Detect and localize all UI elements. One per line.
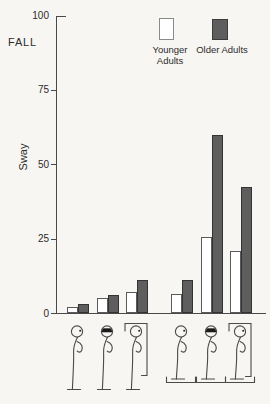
bar-older-condition-5: [212, 135, 223, 314]
y-tick-label-75: 75: [19, 84, 49, 95]
y-tick-label-25: 25: [19, 233, 49, 244]
bar-younger-condition-5: [201, 237, 212, 313]
fall-annotation: FALL: [8, 36, 37, 48]
y-tick-label-50: 50: [19, 159, 49, 170]
y-tick-25: [51, 239, 57, 240]
legend-older-swatch: [212, 19, 228, 40]
bar-younger-condition-3: [126, 292, 137, 313]
bar-younger-condition-4: [171, 294, 182, 313]
legend-younger-label: Younger Adults: [144, 44, 196, 66]
bar-younger-condition-2: [97, 298, 108, 313]
y-tick-label-0: 0: [19, 308, 49, 319]
bar-older-condition-4: [182, 280, 193, 313]
bar-older-condition-1: [78, 304, 89, 313]
bar-younger-condition-6: [230, 251, 241, 314]
bar-older-condition-3: [137, 280, 148, 313]
bar-older-condition-2: [108, 295, 119, 313]
sway-bar-chart: FALL Sway 0255075100 Younger Adults Olde…: [0, 0, 270, 404]
figure-visual-box-floor-icon: [116, 320, 156, 398]
y-tick-50: [51, 164, 57, 165]
bar-younger-condition-1: [67, 307, 78, 313]
y-tick-0: [51, 313, 57, 314]
legend-younger-swatch: [159, 18, 174, 40]
y-axis-top-tick: [57, 16, 66, 17]
bar-older-condition-6: [241, 187, 252, 313]
y-axis-title: Sway: [17, 135, 31, 179]
legend-older-label: Older Adults: [196, 44, 248, 55]
y-tick-label-100: 100: [19, 10, 49, 21]
x-axis-line: [56, 313, 266, 314]
y-tick-75: [51, 90, 57, 91]
figure-visual-box-platform-icon: [220, 320, 260, 398]
